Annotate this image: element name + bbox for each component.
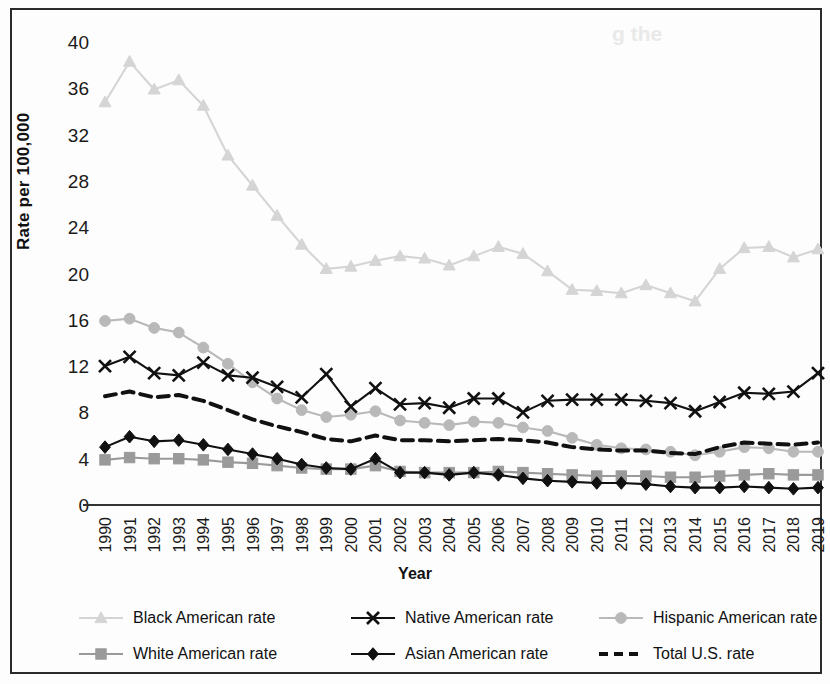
y-tick-label: 8 [78,402,89,423]
x-tick-label: 2006 [490,517,507,553]
data-point-marker [198,439,209,452]
data-point-marker [149,323,160,334]
x-tick-label: 2013 [662,517,679,553]
y-tick-label: 24 [68,217,90,238]
x-tick-label: 1994 [195,517,212,553]
data-point-marker [714,481,725,494]
series-white-american-rate [100,452,823,482]
y-tick-label: 40 [68,32,89,53]
series-black-american-rate [99,55,824,305]
circle-marker-icon [598,608,644,628]
data-point-marker [99,96,111,107]
data-point-marker [812,243,824,254]
x-tick-label: 2011 [613,517,630,552]
x-tick-label: 2003 [417,517,434,553]
x-axis-title: Year [0,565,830,583]
data-point-marker [764,469,774,479]
data-point-marker [124,55,136,66]
series-hispanic-american-rate [100,313,824,460]
y-tick-label: 12 [68,356,89,377]
x-tick-label: 1998 [294,517,311,553]
data-point-marker [124,313,135,324]
data-point-marker [99,360,111,372]
data-point-marker [813,446,824,457]
data-point-marker [714,396,726,408]
data-point-marker [689,405,701,417]
x-tick-label: 1995 [220,517,237,553]
x-tick-label: 2012 [638,517,655,553]
data-point-marker [444,420,455,431]
legend-label: Asian American rate [405,645,548,663]
x-tick-label: 2008 [540,517,557,553]
data-point-marker [222,149,234,160]
data-point-marker [197,357,209,369]
data-point-marker [517,406,529,418]
y-tick-label: 20 [68,264,89,285]
data-point-marker [223,358,234,369]
x-tick-label: 2009 [564,517,581,553]
data-point-marker [813,470,823,480]
data-point-marker [198,455,208,465]
data-point-marker [813,481,824,494]
data-point-marker [223,443,234,456]
data-point-marker [321,412,332,423]
x-marker-icon [350,608,396,628]
series-native-american-rate [99,351,824,419]
x-tick-label: 2015 [712,517,729,553]
legend-item: White American rate [78,644,350,664]
data-point-marker [739,480,750,493]
data-point-marker [173,327,184,338]
data-point-marker [788,482,799,495]
x-tick-label: 2001 [367,517,384,553]
data-point-marker [640,279,652,290]
series-line [105,319,818,456]
legend-label: Black American rate [133,609,275,627]
data-point-marker [788,470,798,480]
data-point-marker [812,367,824,379]
data-point-marker [124,430,135,443]
data-point-marker [124,452,134,462]
data-point-marker [518,422,529,433]
data-point-marker [788,446,799,457]
data-point-marker [198,342,209,353]
data-point-marker [100,316,111,327]
series-line [105,62,818,302]
legend-item: Hispanic American rate [598,608,788,628]
data-point-marker [296,405,307,416]
legend-item: Asian American rate [350,644,598,664]
data-point-marker [763,481,774,494]
legend-label: Native American rate [405,609,554,627]
data-point-marker [320,368,332,380]
data-point-marker [714,471,724,481]
square-marker-icon [78,644,124,664]
legend-item: Black American rate [78,608,350,628]
triangle-marker-icon [78,608,124,628]
legend-item: Total U.S. rate [598,644,788,664]
data-point-marker [739,470,749,480]
x-tick-label: 2019 [810,517,827,553]
data-point-marker [395,415,406,426]
data-point-marker [369,382,381,394]
x-tick-label: 2004 [441,517,458,553]
x-tick-label: 2002 [392,517,409,553]
data-point-marker [271,381,283,393]
data-point-marker [394,250,406,261]
data-point-marker [149,435,160,448]
x-tick-label: 1991 [122,517,139,553]
data-point-marker [492,241,504,252]
data-point-marker [124,351,136,363]
y-tick-label: 32 [68,125,89,146]
x-tick-label: 2010 [589,517,606,553]
data-point-marker [419,417,430,428]
data-point-marker [100,441,111,454]
data-point-marker [493,417,504,428]
data-point-marker [370,406,381,417]
x-tick-label: 1992 [146,517,163,553]
series-line [105,437,818,489]
x-tick-label: 2005 [466,517,483,553]
x-tick-label: 1993 [171,517,188,553]
x-tick-label: 2016 [736,517,753,553]
x-tick-label: 1997 [269,517,286,553]
figure-container: g the Rate per 100,000 04812162024283236… [0,0,830,684]
data-point-marker [690,481,701,494]
